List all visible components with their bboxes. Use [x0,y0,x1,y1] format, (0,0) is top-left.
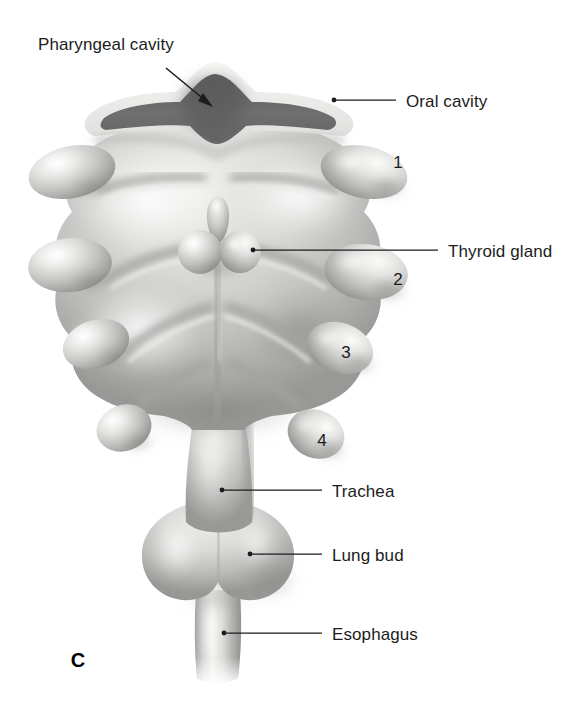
arch-number-1: 1 [393,153,402,172]
lung-bud-leader-dot [248,552,253,557]
thyroid-gland-label: Thyroid gland [448,242,552,261]
lung-bud-shadow-bottom [184,585,252,609]
trachea-leader-dot [220,488,225,493]
arch-right-2-shadow [366,277,410,303]
arch-left-1-shadow [68,176,116,200]
arch-left-4-highlight [101,410,127,426]
arch-number-2: 2 [393,270,402,289]
esophagus-leader-dot [222,631,227,636]
arch-left-4-shadow [120,432,156,452]
cavity-deep-recess [183,78,243,130]
arch-right-1-highlight [332,152,368,172]
thyroid-gland-leader-dot [251,248,256,253]
arch-left-2-shadow [68,270,116,294]
thyroid-lobe-right-highlight [226,237,242,251]
thyroid-base-shadow [189,256,249,280]
trachea-label: Trachea [332,482,395,501]
lung-bud-shadow-right [244,562,296,598]
thyroid-stalk-highlight [210,198,222,214]
thyroid-lobe-left-highlight [184,236,202,252]
arch-left-3-shadow [94,347,134,369]
lung-bud-label: Lung bud [332,546,404,565]
arch-left-2-highlight [38,246,74,266]
panel-letter: C [71,649,85,671]
arch-number-3: 3 [341,343,350,362]
arch-left-3-highlight [69,325,99,343]
arch-number-4: 4 [317,431,326,450]
anatomy-figure: Pharyngeal cavity Oral cavity Thyroid gl… [0,0,586,717]
oral-cavity-label: Oral cavity [406,92,488,111]
arch-right-1-shadow [364,176,408,200]
figure-canvas: Pharyngeal cavity Oral cavity Thyroid gl… [0,0,586,717]
arch-right-3-highlight [313,329,343,347]
oral-cavity-leader-dot [332,98,337,103]
arch-right-4-highlight [293,416,319,432]
arch-right-2-highlight [334,252,370,272]
esophagus-label: Esophagus [332,625,418,644]
pharyngeal-cavity-label: Pharyngeal cavity [38,35,174,54]
